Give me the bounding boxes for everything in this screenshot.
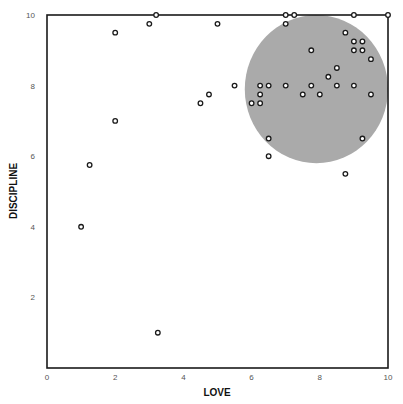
data-point	[292, 13, 297, 18]
data-point	[309, 83, 314, 88]
data-point	[335, 83, 340, 88]
data-point	[215, 22, 220, 27]
data-point	[343, 30, 348, 35]
data-point	[318, 92, 323, 97]
data-point	[147, 22, 152, 27]
data-point	[198, 101, 203, 106]
x-axis-ticks: 0246810	[45, 373, 393, 382]
data-point	[156, 330, 161, 335]
data-point	[360, 48, 365, 53]
data-point	[79, 225, 84, 230]
data-point	[232, 83, 237, 88]
data-point	[360, 39, 365, 44]
y-tick-label: 10	[26, 11, 35, 20]
data-point	[343, 172, 348, 177]
y-tick-label: 6	[31, 152, 36, 161]
x-axis-label: LOVE	[203, 387, 231, 398]
data-point	[266, 154, 271, 159]
data-point	[113, 30, 118, 35]
data-point	[335, 66, 340, 71]
data-point	[352, 13, 357, 18]
data-point	[283, 13, 288, 18]
data-point	[352, 39, 357, 44]
y-axis-label: DISCIPLINE	[8, 163, 19, 219]
data-point	[309, 48, 314, 53]
x-tick-label: 4	[181, 373, 186, 382]
y-tick-label: 8	[31, 82, 36, 91]
y-tick-label: 4	[31, 223, 36, 232]
x-tick-label: 2	[113, 373, 118, 382]
x-tick-label: 10	[384, 373, 393, 382]
data-point	[258, 92, 263, 97]
data-point	[283, 83, 288, 88]
data-point	[258, 101, 263, 106]
data-point	[300, 92, 305, 97]
data-point	[249, 101, 254, 106]
highlight-region	[245, 15, 388, 163]
x-tick-label: 0	[45, 373, 50, 382]
data-point	[369, 57, 374, 62]
scatter-chart: 0246810 246810 LOVE DISCIPLINE	[0, 0, 403, 404]
data-point	[352, 83, 357, 88]
data-point	[87, 163, 92, 168]
data-point	[266, 136, 271, 141]
y-tick-label: 2	[31, 293, 36, 302]
y-axis-ticks: 246810	[26, 11, 35, 302]
x-tick-label: 8	[318, 373, 323, 382]
data-point	[207, 92, 212, 97]
data-point	[258, 83, 263, 88]
data-point	[369, 92, 374, 97]
x-tick-label: 6	[249, 373, 254, 382]
highlight-circle	[245, 15, 388, 163]
data-point	[352, 48, 357, 53]
data-point	[154, 13, 159, 18]
data-point	[326, 74, 331, 79]
data-point	[266, 83, 271, 88]
data-point	[113, 119, 118, 124]
data-point	[386, 13, 391, 18]
data-point	[283, 22, 288, 27]
data-point	[360, 136, 365, 141]
